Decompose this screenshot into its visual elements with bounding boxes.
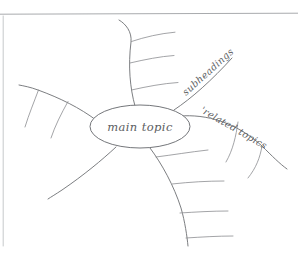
branch-label-subheadings: subheadings [180,46,236,98]
handwriting-layer: main topic subheadings 'related topics [0,0,298,262]
branch-label-related-topics: 'related topics [199,104,269,151]
center-node-label: main topic [107,120,173,134]
sketch-canvas: main topic subheadings 'related topics [0,0,298,262]
